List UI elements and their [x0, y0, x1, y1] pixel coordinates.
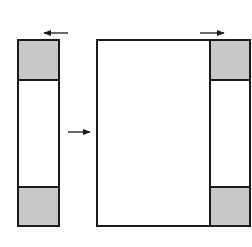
big-rectangle	[97, 40, 250, 226]
diagram-canvas	[0, 0, 252, 247]
left-strip	[18, 40, 59, 226]
right-bottom-shade	[210, 187, 250, 226]
left-bottom-shade	[18, 187, 59, 226]
right-top-shade	[210, 40, 250, 80]
left-top-shade	[18, 40, 59, 80]
